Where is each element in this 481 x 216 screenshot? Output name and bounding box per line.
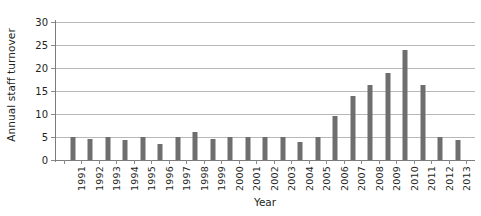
bar-slot — [256, 22, 274, 160]
bars-layer — [55, 22, 475, 160]
bar-slot — [291, 22, 309, 160]
bar — [333, 116, 338, 160]
y-tick-label: 0 — [42, 155, 48, 166]
bar — [315, 137, 320, 160]
bar — [455, 140, 460, 160]
bar-slot — [151, 22, 169, 160]
bar-slot — [274, 22, 292, 160]
bar-slot — [221, 22, 239, 160]
x-tick — [221, 160, 222, 164]
bar — [280, 137, 285, 160]
bar-slot — [99, 22, 117, 160]
x-tick — [344, 160, 345, 164]
x-tick-label: 2009 — [391, 166, 402, 191]
y-tick-label: 10 — [35, 109, 48, 120]
x-tick — [291, 160, 292, 164]
bar-slot — [449, 22, 467, 160]
bar — [438, 137, 443, 160]
x-tick — [64, 160, 65, 164]
x-tick-label: 2011 — [426, 166, 437, 191]
bar — [210, 139, 215, 160]
bar-chart: Annual staff turnover 051015202530 19911… — [0, 0, 481, 216]
x-tick-label: 2008 — [374, 166, 385, 191]
bar — [420, 85, 425, 160]
bar-slot — [344, 22, 362, 160]
bar — [70, 137, 75, 160]
y-tick-label: 20 — [35, 63, 48, 74]
y-tick-label: 5 — [42, 132, 48, 143]
bar — [140, 137, 145, 160]
bar-slot — [414, 22, 432, 160]
bar — [88, 139, 93, 160]
x-tick-label: 1994 — [129, 166, 140, 191]
bar-slot — [379, 22, 397, 160]
x-tick-label: 2013 — [461, 166, 472, 191]
bar — [298, 142, 303, 160]
bar-slot — [169, 22, 187, 160]
y-tick-label: 30 — [35, 17, 48, 28]
y-axis-tick-labels: 051015202530 — [22, 0, 52, 175]
x-tick-label: 1996 — [164, 166, 175, 191]
x-tick-label: 2002 — [269, 166, 280, 191]
x-tick — [151, 160, 152, 164]
x-tick — [274, 160, 275, 164]
x-tick — [169, 160, 170, 164]
bar — [403, 50, 408, 160]
bar — [175, 137, 180, 160]
x-tick-label: 1991 — [76, 166, 87, 191]
x-tick — [414, 160, 415, 164]
bar-slot — [81, 22, 99, 160]
x-tick-label: 1995 — [146, 166, 157, 191]
x-axis-title: Year — [55, 196, 475, 208]
bar-slot — [396, 22, 414, 160]
y-axis-title: Annual staff turnover — [0, 0, 22, 170]
bar — [123, 140, 128, 160]
x-tick-label: 2005 — [321, 166, 332, 191]
x-tick-label: 2012 — [444, 166, 455, 191]
x-tick — [396, 160, 397, 164]
bar-slot — [186, 22, 204, 160]
x-tick-label: 2000 — [234, 166, 245, 191]
y-tick-label: 25 — [35, 40, 48, 51]
x-tick — [99, 160, 100, 164]
x-tick-label: 2006 — [339, 166, 350, 191]
x-tick — [239, 160, 240, 164]
x-tick — [134, 160, 135, 164]
y-axis-title-text: Annual staff turnover — [5, 28, 17, 142]
x-tick — [256, 160, 257, 164]
x-tick — [186, 160, 187, 164]
bar-slot — [361, 22, 379, 160]
x-tick — [431, 160, 432, 164]
x-tick-label: 2003 — [286, 166, 297, 191]
bar-slot — [64, 22, 82, 160]
bar-slot — [326, 22, 344, 160]
y-tick-label: 15 — [35, 86, 48, 97]
x-tick — [116, 160, 117, 164]
x-tick-label: 2004 — [304, 166, 315, 191]
bar-slot — [116, 22, 134, 160]
x-tick-label: 2001 — [251, 166, 262, 191]
bar — [228, 137, 233, 160]
x-tick-label: 1997 — [181, 166, 192, 191]
bar — [245, 137, 250, 160]
bar — [158, 144, 163, 160]
bar — [263, 137, 268, 160]
bar-slot — [239, 22, 257, 160]
x-tick — [379, 160, 380, 164]
bar — [193, 132, 198, 160]
bar — [368, 85, 373, 160]
x-tick — [309, 160, 310, 164]
x-tick-label: 1993 — [111, 166, 122, 191]
bar — [350, 96, 355, 160]
x-tick — [449, 160, 450, 164]
x-tick — [326, 160, 327, 164]
bar-slot — [134, 22, 152, 160]
bar-slot — [309, 22, 327, 160]
x-tick-label: 2010 — [409, 166, 420, 191]
x-tick — [204, 160, 205, 164]
x-axis-ticks — [55, 160, 475, 165]
x-tick-label: 1999 — [216, 166, 227, 191]
x-tick-label: 2007 — [356, 166, 367, 191]
bar-slot — [204, 22, 222, 160]
x-tick — [81, 160, 82, 164]
